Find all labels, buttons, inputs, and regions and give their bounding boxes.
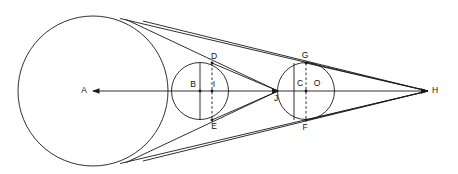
point-marker-C (305, 90, 308, 93)
geometry-canvas: A B C D E F G H I J O (0, 0, 458, 174)
internal-tangent-lower (126, 91, 278, 163)
outer-tangent-upper-2 (143, 21, 428, 91)
horizontal-axis (92, 88, 429, 94)
label-D: D (211, 51, 217, 61)
chord-G-to-H (306, 63, 428, 91)
label-O: O (314, 78, 321, 88)
vertical-chords-group (200, 63, 306, 120)
chord-F-to-H (306, 91, 428, 120)
label-E: E (211, 121, 217, 131)
label-C: C (297, 78, 303, 88)
point-marker-F (305, 119, 308, 122)
point-marker-D (211, 62, 214, 65)
middle-circle-tangent-chords (212, 63, 278, 120)
chord-D-to-J (212, 63, 278, 91)
label-B: B (190, 79, 196, 89)
point-marker-G (305, 62, 308, 65)
label-A: A (81, 85, 87, 95)
internal-tangent-upper (126, 20, 278, 92)
right-circle-tangent-chords (306, 63, 428, 120)
geometry-diagram: A B C D E F G H I J O (0, 0, 458, 174)
chord-E-to-J (212, 91, 278, 120)
point-markers-group (199, 62, 308, 122)
axis-right-arrowhead (421, 88, 429, 94)
point-marker-B (199, 90, 202, 93)
label-G: G (302, 50, 309, 60)
point-marker-I (211, 90, 214, 93)
label-I: I (213, 79, 215, 89)
label-J: J (274, 93, 278, 103)
label-F: F (302, 122, 307, 132)
axis-left-arrowhead (92, 88, 100, 94)
label-H: H (432, 85, 438, 95)
